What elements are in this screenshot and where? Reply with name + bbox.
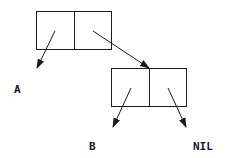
arrow-cdr-to-nil	[168, 88, 186, 127]
cons-cell-2	[112, 69, 187, 107]
diagram-canvas	[0, 0, 227, 158]
arrow-car-to-b	[113, 88, 131, 127]
cons-cell-1	[37, 12, 112, 50]
label-a: A	[14, 84, 21, 95]
label-nil: NIL	[193, 141, 213, 152]
cons-cell-diagram: A B NIL	[0, 0, 227, 158]
label-b: B	[89, 141, 96, 152]
